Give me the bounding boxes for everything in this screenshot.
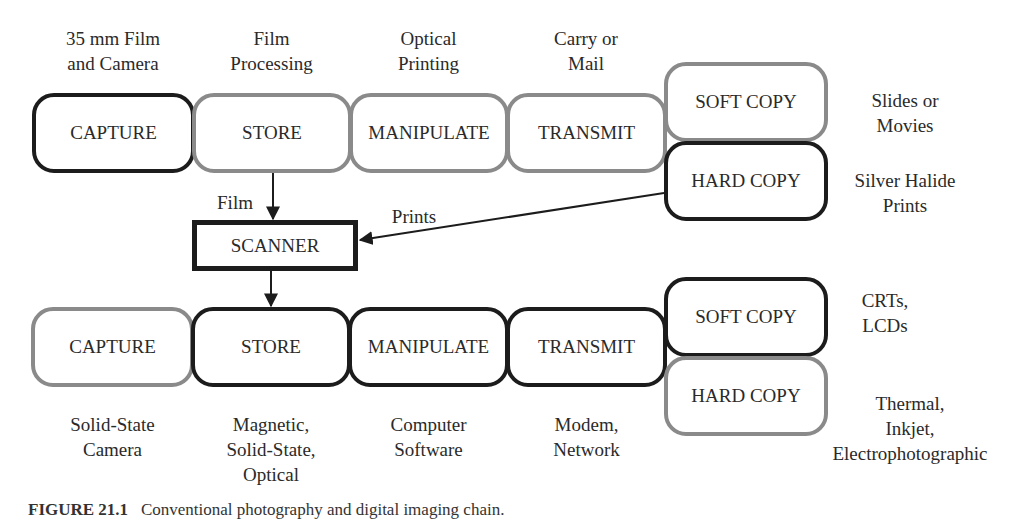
bottom-transmit-caption: Modem, Network xyxy=(506,412,667,462)
bottom-capture-caption: Solid-State Camera xyxy=(31,412,194,462)
prints-arrow xyxy=(360,193,664,240)
bottom-capture-label: CAPTURE xyxy=(69,336,156,358)
bottom-capture-box: CAPTURE xyxy=(31,307,194,387)
bottom-store-box: STORE xyxy=(191,307,351,387)
figure-caption: FIGURE 21.1 Conventional photography and… xyxy=(28,500,504,520)
bottom-soft-copy-note: CRTs, LCDs xyxy=(810,288,960,338)
bottom-manipulate-caption: Computer Software xyxy=(348,412,509,462)
bottom-manipulate-box: MANIPULATE xyxy=(348,307,509,387)
figure-caption-text: Conventional photography and digital ima… xyxy=(141,500,505,519)
bottom-store-label: STORE xyxy=(241,336,301,358)
bottom-soft-copy-box: SOFT COPY xyxy=(664,277,828,357)
bottom-transmit-label: TRANSMIT xyxy=(538,336,635,358)
bottom-manipulate-label: MANIPULATE xyxy=(368,336,489,358)
bottom-transmit-box: TRANSMIT xyxy=(506,307,667,387)
bottom-store-caption: Magnetic, Solid-State, Optical xyxy=(191,412,351,487)
bottom-hard-copy-note: Thermal, Inkjet, Electrophotographic xyxy=(800,391,1016,466)
bottom-hard-copy-label: HARD COPY xyxy=(691,385,800,407)
figure-number: FIGURE 21.1 xyxy=(28,500,128,519)
bottom-soft-copy-label: SOFT COPY xyxy=(695,306,797,328)
